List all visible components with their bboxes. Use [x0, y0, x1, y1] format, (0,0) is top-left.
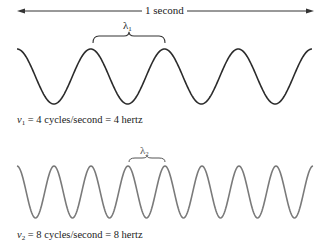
frequency-wavelength-diagram: 1 second λ1 ν1 = 4 cycles/second = 4 her…: [0, 0, 328, 245]
frequency-1-caption: ν1 = 4 cycles/second = 4 hertz: [17, 114, 143, 129]
arrow-left-icon: [17, 9, 25, 14]
wave-2-curve: [17, 166, 313, 218]
wavelength-2-subscript: 2: [145, 150, 149, 158]
frequency-2-caption: ν2 = 8 cycles/second = 8 hertz: [17, 229, 143, 244]
wavelength-1-subscript: 1: [128, 25, 132, 33]
wavelength-2-label: λ2: [140, 144, 149, 160]
arrow-right-icon: [306, 9, 314, 14]
wavelength-1-label: λ1: [123, 19, 132, 35]
wave-1-curve: [17, 49, 312, 104]
frequency-2-text: = 8 cycles/second = 8 hertz: [25, 229, 142, 240]
frequency-1-text: = 4 cycles/second = 4 hertz: [25, 114, 142, 125]
time-span-label: 1 second: [142, 4, 187, 16]
